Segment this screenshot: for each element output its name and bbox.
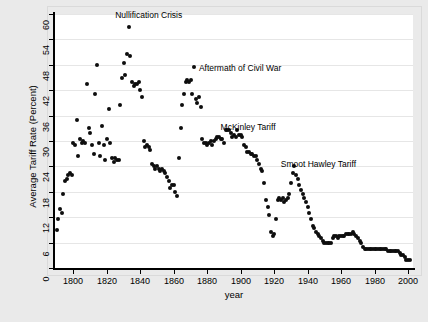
data-point [307, 211, 311, 215]
y-tick-label: 12 [41, 217, 51, 239]
gridline [55, 90, 413, 91]
y-tick-label: 30 [41, 141, 51, 163]
data-point [85, 82, 89, 86]
data-point [244, 145, 248, 149]
chart-annotation: Aftermath of Civil War [199, 63, 281, 73]
data-point [309, 217, 313, 221]
x-tick-mark [375, 270, 376, 274]
data-point [297, 183, 301, 187]
y-tick-label: 24 [41, 166, 51, 188]
y-axis-label: Average Tariff Rate (Percent) [27, 67, 38, 227]
data-point [286, 196, 290, 200]
data-point [180, 103, 184, 107]
data-point [83, 141, 87, 145]
data-point [98, 154, 102, 158]
data-point [306, 205, 310, 209]
y-tick-label: 60 [41, 14, 51, 36]
data-point [172, 183, 176, 187]
data-point [274, 217, 278, 221]
data-point [262, 181, 266, 185]
x-tick-mark [140, 270, 141, 274]
data-point [304, 200, 308, 204]
y-tick-label: 0 [41, 268, 51, 290]
data-point [222, 141, 226, 145]
data-point [240, 135, 244, 139]
data-point [128, 54, 132, 58]
data-point [260, 169, 264, 173]
data-point [75, 118, 79, 122]
data-point [192, 65, 196, 69]
data-point [189, 78, 193, 82]
data-point [60, 211, 64, 215]
data-point [56, 217, 60, 221]
x-tick-mark [308, 270, 309, 274]
data-point [210, 143, 214, 147]
chart-annotation: Nullification Crisis [115, 10, 182, 20]
y-tick-label: 36 [41, 116, 51, 138]
data-point [296, 177, 300, 181]
x-tick-mark [241, 270, 242, 274]
data-point [122, 61, 126, 65]
y-tick-label: 42 [41, 90, 51, 112]
data-point [65, 177, 69, 181]
data-point [359, 241, 363, 245]
x-axis-label: year [55, 289, 413, 300]
x-tick-mark [107, 270, 108, 274]
gridline [55, 14, 413, 15]
data-point [61, 192, 65, 196]
data-point [190, 92, 194, 96]
y-tick-label: 18 [41, 192, 51, 214]
gridline [55, 166, 413, 167]
chart-figure: Nullification CrisisAftermath of Civil W… [0, 0, 428, 322]
data-point [266, 205, 270, 209]
data-point [195, 101, 199, 105]
data-point [148, 148, 152, 152]
data-point [70, 173, 74, 177]
data-point [272, 232, 276, 236]
data-point [199, 105, 203, 109]
x-tick-mark [207, 270, 208, 274]
data-point [118, 103, 122, 107]
figure-background: Nullification CrisisAftermath of Civil W… [0, 0, 428, 322]
data-point [329, 241, 333, 245]
data-point [127, 25, 131, 29]
x-tick-label: 2000 [388, 276, 428, 286]
gridline [55, 192, 413, 193]
data-point [289, 181, 293, 185]
x-tick-mark [408, 270, 409, 274]
plot-panel: Nullification CrisisAftermath of Civil W… [55, 14, 413, 268]
y-tick-label: 6 [41, 243, 51, 265]
chart-annotation: McKinley Tariff [221, 122, 276, 132]
data-point [100, 124, 104, 128]
data-point [93, 92, 97, 96]
data-point [177, 156, 181, 160]
y-tick-label: 48 [41, 65, 51, 87]
data-point [137, 80, 141, 84]
data-point [287, 192, 291, 196]
chart-annotation: Smoot Hawley Tariff [281, 159, 356, 169]
data-point [264, 198, 268, 202]
data-point [140, 95, 144, 99]
data-point [179, 126, 183, 130]
x-tick-mark [341, 270, 342, 274]
x-tick-mark [174, 270, 175, 274]
data-point [102, 143, 106, 147]
x-tick-mark [274, 270, 275, 274]
data-point [88, 131, 92, 135]
data-point [138, 88, 142, 92]
data-point [197, 95, 201, 99]
x-tick-mark [73, 270, 74, 274]
data-point [92, 152, 96, 156]
data-point [90, 143, 94, 147]
data-point [117, 158, 121, 162]
data-point [97, 141, 101, 145]
y-axis-line [53, 12, 55, 270]
data-point [107, 107, 111, 111]
data-point [182, 92, 186, 96]
data-point [76, 154, 80, 158]
data-point [103, 158, 107, 162]
data-point [95, 63, 99, 67]
gridline [55, 217, 413, 218]
data-point [87, 126, 91, 130]
data-point [73, 143, 77, 147]
